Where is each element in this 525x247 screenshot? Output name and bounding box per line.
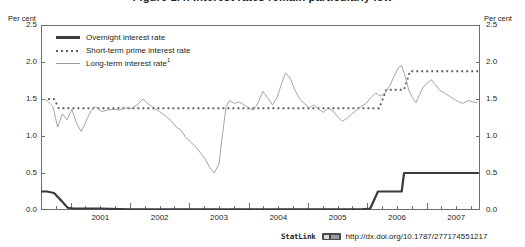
series-line xyxy=(42,66,477,173)
interest-rates-figure: Figure 1.4. Interest rates remain partic… xyxy=(0,0,525,247)
y-axis-tick-label-left: 2.5 xyxy=(3,20,37,29)
statlink-label: StatLink xyxy=(281,232,316,241)
series-line xyxy=(48,71,479,108)
statlink-badge-icon xyxy=(322,233,341,240)
x-axis-tick-label: 2004 xyxy=(258,213,298,222)
x-axis-tick-label: 2002 xyxy=(140,213,180,222)
chart-title: Figure 1.4. Interest rates remain partic… xyxy=(0,0,525,3)
y-axis-tick-label-left: 0.0 xyxy=(3,205,37,214)
x-axis-tick-label: 2006 xyxy=(377,213,417,222)
y-axis-tick-label-right: 2.0 xyxy=(486,57,520,66)
series-plot-layer xyxy=(41,25,480,210)
y-axis-tick-label-left: 1.5 xyxy=(3,94,37,103)
y-axis-tick-label-right: 2.5 xyxy=(486,20,520,29)
y-axis-tick-label-right: 0.5 xyxy=(486,168,520,177)
x-axis-tick-label: 2005 xyxy=(318,213,358,222)
y-axis-tick-label-right: 0.0 xyxy=(486,205,520,214)
statlink-url[interactable]: http://dx.doi.org/10.1787/277174551217 xyxy=(346,232,488,241)
series-line xyxy=(41,173,479,209)
x-axis-tick-label: 2007 xyxy=(436,213,476,222)
y-axis-tick-label-right: 1.5 xyxy=(486,94,520,103)
y-axis-tick-label-left: 1.0 xyxy=(3,131,37,140)
y-axis-tick-label-left: 2.0 xyxy=(3,57,37,66)
x-axis-tick-label: 2001 xyxy=(80,213,120,222)
y-axis-tick-label-left: 0.5 xyxy=(3,168,37,177)
x-axis-tick-label: 2003 xyxy=(199,213,239,222)
statlink-footer: StatLink http://dx.doi.org/10.1787/27717… xyxy=(281,231,487,242)
y-axis-tick-label-right: 1.0 xyxy=(486,131,520,140)
